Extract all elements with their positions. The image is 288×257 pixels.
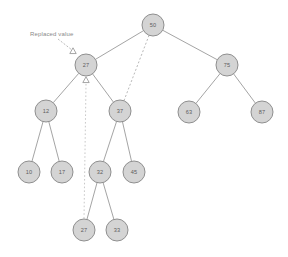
tree-canvas: Replaced value 5027751237638710173245273… [0, 0, 288, 257]
tree-edge [95, 31, 143, 60]
tree-node[interactable]: 45 [123, 161, 145, 183]
tree-node-label: 12 [43, 108, 50, 114]
tree-node[interactable]: 50 [142, 14, 164, 36]
tree-node[interactable]: 37 [109, 100, 131, 122]
nodes-group: 50277512376387101732452733 [18, 14, 273, 241]
tree-node[interactable]: 63 [178, 101, 200, 123]
tree-edge [163, 30, 218, 60]
tree-node[interactable]: 27 [75, 54, 97, 76]
tree-edge [53, 73, 79, 102]
tree-node-label: 27 [81, 227, 88, 233]
pointer-dotted-line [84, 84, 86, 219]
tree-node[interactable]: 75 [216, 54, 238, 76]
tree-node[interactable]: 10 [18, 161, 40, 183]
tree-node[interactable]: 12 [35, 100, 57, 122]
tree-diagram: Replaced value 5027751237638710173245273… [0, 0, 288, 257]
triangle-marker-icon [83, 77, 89, 83]
annotation-arrow [58, 39, 72, 50]
tree-node-label: 37 [117, 108, 124, 114]
annotation-group: Replaced value [30, 31, 74, 50]
replacement-pointer-line [84, 84, 86, 219]
tree-edge [103, 121, 116, 161]
annotation-label: Replaced value [30, 31, 74, 37]
tree-node-label: 50 [150, 22, 157, 28]
tree-node-label: 17 [59, 169, 66, 175]
tree-edge [87, 183, 97, 220]
tree-node-label: 87 [259, 109, 266, 115]
tree-node-label: 32 [97, 169, 104, 175]
tree-edge [234, 74, 256, 103]
tree-edge [93, 74, 114, 102]
tree-edge [124, 35, 149, 100]
tree-node-label: 33 [114, 227, 121, 233]
tree-node-label: 45 [131, 169, 138, 175]
tree-edge [103, 183, 114, 220]
tree-edge [196, 74, 220, 104]
tree-node[interactable]: 87 [251, 101, 273, 123]
tree-node-label: 10 [26, 169, 33, 175]
tree-edge [122, 122, 131, 162]
tree-node-label: 63 [186, 109, 193, 115]
tree-node[interactable]: 17 [51, 161, 73, 183]
tree-node[interactable]: 27 [73, 219, 95, 241]
tree-node-label: 75 [224, 62, 231, 68]
tree-edge [49, 122, 59, 162]
tree-edge [32, 122, 43, 162]
tree-node[interactable]: 32 [89, 161, 111, 183]
tree-node[interactable]: 33 [106, 219, 128, 241]
tree-node-label: 27 [83, 62, 90, 68]
